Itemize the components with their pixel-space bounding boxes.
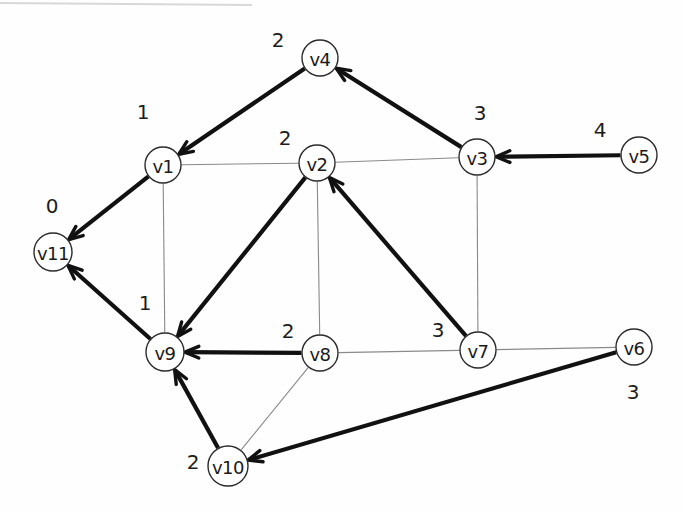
node-v7[interactable]: v7 (460, 332, 496, 368)
edge-v2-v9 (178, 177, 305, 335)
node-label-v6: v6 (623, 338, 644, 359)
node-v2[interactable]: v2 (299, 145, 335, 181)
edge-v1-v9 (163, 183, 165, 332)
node-label-v11: v11 (37, 243, 69, 264)
node-label-v7: v7 (467, 341, 488, 362)
node-v9[interactable]: v9 (146, 333, 184, 371)
edge-v5-v3 (497, 155, 621, 157)
weight-label-layer: 21234012332 (46, 28, 640, 474)
edge-v3-v4 (337, 69, 461, 147)
node-v11[interactable]: v11 (34, 233, 72, 271)
edge-v7-v6 (496, 347, 615, 349)
node-label-v10: v10 (212, 457, 244, 478)
weight-label-v6: 3 (627, 380, 640, 404)
weight-label-v3: 3 (474, 101, 487, 125)
weight-label-v11: 0 (46, 194, 59, 218)
node-layer: v1v2v3v4v5v6v7v8v9v10v11 (34, 40, 657, 486)
node-v4[interactable]: v4 (302, 40, 338, 76)
weight-label-v9: 1 (139, 291, 152, 315)
edge-v8-v7 (338, 350, 459, 352)
edge-v2-v8 (317, 181, 319, 334)
weight-label-v1: 1 (137, 100, 150, 124)
edge-v8-v9 (186, 352, 302, 353)
edge-v10-v9 (175, 370, 218, 448)
node-v5[interactable]: v5 (621, 137, 657, 173)
weight-label-v4: 2 (272, 28, 285, 52)
weight-label-v8: 2 (282, 319, 295, 343)
graph-diagram-canvas: v1v2v3v4v5v6v7v8v9v10v11 21234012332 (0, 0, 682, 513)
node-label-v4: v4 (309, 49, 330, 70)
edge-layer (69, 68, 621, 459)
edge-v2-v3 (335, 158, 458, 163)
edge-v7-v2 (330, 178, 466, 336)
edge-v1-v11 (69, 176, 148, 238)
weight-label-v10: 2 (187, 450, 200, 474)
node-v1[interactable]: v1 (145, 147, 181, 183)
edge-v3-v7 (477, 175, 478, 331)
node-v3[interactable]: v3 (459, 139, 495, 175)
edge-v1-v2 (181, 163, 298, 165)
scan-artifact-layer (0, 3, 252, 5)
weight-label-v5: 4 (594, 118, 607, 142)
top-scanline (0, 3, 252, 5)
node-v6[interactable]: v6 (616, 329, 652, 365)
node-label-v5: v5 (628, 146, 649, 167)
node-label-v8: v8 (309, 344, 330, 365)
edge-v6-v10 (249, 352, 616, 460)
edge-v8-v10 (241, 367, 308, 450)
node-v10[interactable]: v10 (208, 446, 248, 486)
node-label-v1: v1 (152, 156, 173, 177)
weight-label-v2: 2 (279, 126, 292, 150)
node-label-v2: v2 (306, 154, 327, 175)
node-v8[interactable]: v8 (302, 335, 338, 371)
weight-label-v7: 3 (432, 318, 445, 342)
node-label-v3: v3 (466, 148, 487, 169)
node-label-v9: v9 (154, 343, 175, 364)
